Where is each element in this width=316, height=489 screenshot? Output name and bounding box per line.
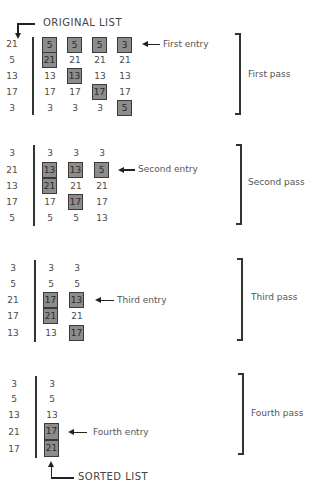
original-list-arrow	[17, 23, 35, 25]
value: 3	[92, 100, 108, 116]
original-value: 21	[5, 292, 21, 308]
value: 13	[117, 68, 133, 84]
original-value: 21	[4, 36, 20, 52]
value: 3	[42, 100, 58, 116]
highlighted-value: 21	[42, 52, 57, 68]
value: 5	[68, 210, 84, 226]
original-list-caption: ORIGINAL LIST	[43, 17, 122, 28]
highlighted-value: 21	[43, 308, 58, 324]
value: 3	[67, 100, 83, 116]
original-value: 13	[5, 325, 21, 341]
value: 21	[67, 52, 83, 68]
original-value: 17	[5, 308, 21, 324]
highlighted-value: 13	[68, 162, 83, 178]
highlighted-value: 17	[44, 423, 59, 440]
value: 13	[43, 325, 59, 341]
pass-bracket	[235, 33, 241, 115]
value: 3	[69, 260, 85, 276]
highlighted-value: 17	[69, 325, 84, 341]
value: 17	[42, 84, 58, 100]
original-value: 5	[4, 210, 20, 226]
value: 17	[94, 194, 110, 210]
value: 5	[44, 391, 60, 407]
pass-bracket	[238, 373, 244, 455]
value: 3	[68, 145, 84, 161]
original-value: 21	[4, 162, 20, 178]
original-value: 13	[4, 68, 20, 84]
highlighted-value: 5	[67, 37, 82, 53]
value: 21	[69, 308, 85, 324]
value: 17	[117, 84, 133, 100]
value: 17	[67, 84, 83, 100]
separator-line	[32, 37, 34, 115]
value: 13	[92, 68, 108, 84]
separator-line	[34, 260, 36, 342]
pass-label: Third pass	[251, 292, 297, 302]
original-value: 17	[4, 84, 20, 100]
entry-arrow-line	[147, 44, 160, 46]
original-value: 5	[6, 391, 22, 407]
original-value: 13	[6, 407, 22, 423]
highlighted-value: 13	[42, 162, 57, 178]
value: 21	[92, 52, 108, 68]
highlighted-value: 5	[42, 37, 57, 53]
original-value: 21	[6, 424, 22, 440]
highlighted-value: 17	[43, 292, 58, 308]
original-value: 17	[4, 194, 20, 210]
entry-label: Third entry	[117, 294, 167, 306]
value: 3	[42, 145, 58, 161]
original-value: 13	[4, 178, 20, 194]
separator-line	[35, 376, 37, 458]
value: 3	[43, 260, 59, 276]
value: 21	[68, 178, 84, 194]
highlighted-value: 5	[94, 162, 109, 178]
highlighted-value: 5	[92, 37, 107, 53]
value: 21	[117, 52, 133, 68]
original-value: 3	[5, 260, 21, 276]
value: 13	[42, 68, 58, 84]
original-value: 17	[6, 441, 22, 457]
value: 5	[43, 276, 59, 292]
highlighted-value: 13	[67, 68, 82, 84]
original-value: 3	[4, 145, 20, 161]
entry-label: Second entry	[138, 163, 198, 175]
highlighted-value: 13	[69, 292, 84, 308]
pass-bracket	[236, 144, 242, 225]
separator-line	[33, 145, 35, 226]
value: 3	[94, 145, 110, 161]
entry-label: Fourth entry	[93, 426, 149, 438]
highlighted-value: 21	[44, 440, 59, 457]
pass-bracket	[237, 258, 243, 341]
original-value: 5	[4, 52, 20, 68]
cropped-header-text	[218, 0, 314, 6]
value: 21	[94, 178, 110, 194]
entry-arrow-line	[73, 432, 87, 434]
value: 5	[69, 276, 85, 292]
value: 13	[44, 407, 60, 423]
entry-arrow-line	[100, 300, 114, 302]
value: 17	[42, 194, 58, 210]
highlighted-value: 3	[117, 37, 132, 53]
value: 3	[44, 376, 60, 392]
pass-label: Fourth pass	[251, 408, 303, 418]
highlighted-value: 5	[117, 100, 132, 116]
original-value: 3	[4, 100, 20, 116]
value: 5	[42, 210, 58, 226]
highlighted-value: 17	[92, 84, 107, 100]
pass-label: Second pass	[248, 177, 305, 187]
pass-label: First pass	[248, 69, 290, 79]
original-value: 3	[6, 376, 22, 392]
entry-arrow-line	[123, 169, 135, 171]
highlighted-value: 21	[42, 178, 57, 194]
value: 13	[94, 210, 110, 226]
highlighted-value: 17	[68, 194, 83, 210]
sorted-list-caption: SORTED LIST	[78, 471, 148, 482]
entry-label: First entry	[163, 38, 209, 50]
sorted-list-arrow	[51, 477, 74, 479]
original-value: 5	[5, 276, 21, 292]
